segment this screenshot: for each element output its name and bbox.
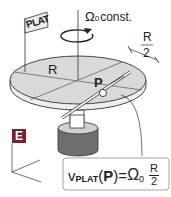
point-label: P — [94, 76, 103, 89]
formula-leader — [121, 95, 142, 156]
velocity-formula: vPLAT(P)=Ω0 R 2 — [68, 163, 159, 187]
formula-fraction: R 2 — [149, 163, 159, 187]
point-p-marker — [99, 89, 106, 96]
rotation-label: Ω0const. — [85, 10, 132, 23]
rotation-arrow-icon — [61, 28, 93, 42]
half-radius-numerator: R — [143, 31, 152, 43]
half-radius-denominator: 2 — [143, 47, 150, 59]
frame-label: E — [15, 130, 23, 142]
radius-label: R — [48, 63, 57, 76]
